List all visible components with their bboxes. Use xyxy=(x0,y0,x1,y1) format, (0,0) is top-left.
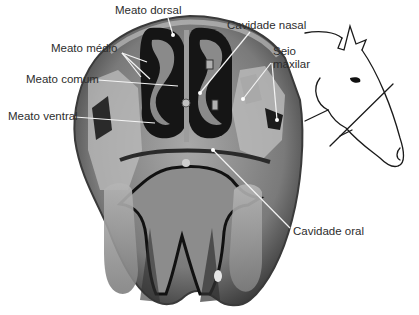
label-seio-maxilar-line1: Seio xyxy=(273,45,296,58)
label-meato-dorsal: Meato dorsal xyxy=(115,4,181,17)
label-meato-medio: Meato médio xyxy=(51,42,117,55)
label-meato-comum: Meato comum xyxy=(26,73,99,86)
label-meato-ventral: Meato ventral xyxy=(8,110,78,123)
label-seio-maxilar-line2: maxilar xyxy=(273,58,310,71)
horse-head-sketch-icon xyxy=(300,18,419,168)
label-cavidade-nasal: Cavidade nasal xyxy=(227,19,306,32)
label-cavidade-oral: Cavidade oral xyxy=(293,225,364,238)
diagram-canvas: Meato dorsal Meato médio Meato comum Mea… xyxy=(0,0,419,315)
